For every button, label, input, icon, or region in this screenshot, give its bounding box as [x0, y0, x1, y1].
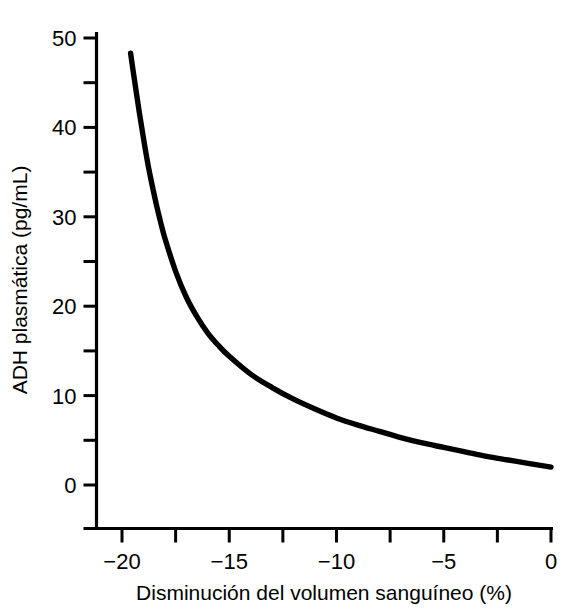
y-tick-label: 40	[52, 115, 76, 140]
y-tick-label: 0	[64, 473, 76, 498]
y-tick-label: 10	[52, 384, 76, 409]
x-tick-label: 0	[545, 549, 557, 574]
y-axis-title: ADH plasmática (pg/mL)	[8, 166, 31, 395]
y-tick-label: 50	[52, 26, 76, 51]
x-axis-title: Disminución del volumen sanguíneo (%)	[136, 581, 512, 604]
x-tick-label: −10	[318, 549, 355, 574]
adh-blood-volume-chart: 01020304050 −20−15−10−50 ADH plasmática …	[0, 0, 580, 612]
y-tick-label: 20	[52, 294, 76, 319]
y-tick-label: 30	[52, 205, 76, 230]
x-tick-label: −5	[431, 549, 456, 574]
chart-container: 01020304050 −20−15−10−50 ADH plasmática …	[0, 0, 580, 612]
x-tick-label: −15	[211, 549, 248, 574]
x-tick-label: −20	[103, 549, 140, 574]
